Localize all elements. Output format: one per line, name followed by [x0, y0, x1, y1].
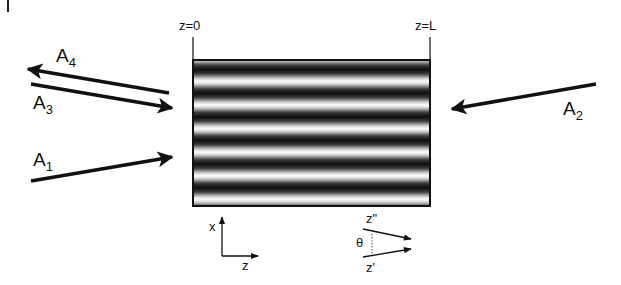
axis-x-label: x	[209, 220, 216, 233]
beam-a3-letter: A	[33, 92, 46, 113]
angle-upper-label: z"	[366, 212, 377, 225]
zL-label: z=L	[415, 19, 436, 32]
axis-z-label: z	[242, 259, 249, 272]
angle-inset-icon	[363, 229, 411, 257]
beam-a3-subscript: 3	[46, 102, 53, 117]
beam-a4-arrow	[28, 69, 169, 93]
beam-a4-label: A4	[56, 46, 76, 65]
axes-icon	[222, 217, 258, 256]
beam-a1-letter: A	[33, 149, 46, 170]
diagram-canvas	[0, 0, 621, 285]
beam-a3-label: A3	[33, 93, 53, 112]
z0-label: z=0	[179, 19, 200, 32]
angle-theta-label: θ	[356, 236, 363, 249]
beam-a1-label: A1	[33, 150, 53, 169]
beam-a4-subscript: 4	[69, 55, 76, 70]
beam-a4-letter: A	[56, 45, 69, 66]
beam-a2-subscript: 2	[576, 108, 583, 123]
beam-a2-label: A2	[563, 99, 583, 118]
beam-a1-subscript: 1	[46, 159, 53, 174]
grating-medium	[193, 60, 430, 206]
angle-lower-label: z'	[366, 261, 375, 274]
beam-a2-letter: A	[563, 98, 576, 119]
